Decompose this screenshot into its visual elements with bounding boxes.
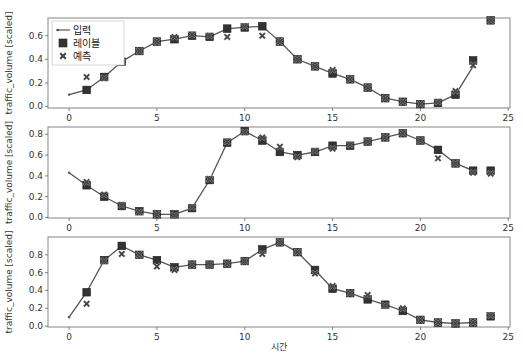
x-axis-label: 시간 bbox=[271, 342, 287, 352]
x-tick-label: 15 bbox=[327, 223, 338, 233]
x-tick-label: 15 bbox=[327, 332, 338, 342]
x-tick-label: 5 bbox=[154, 223, 160, 233]
y-tick-label: 0.0 bbox=[29, 101, 44, 111]
x-tick-label: 10 bbox=[239, 113, 251, 123]
label-marker bbox=[83, 288, 91, 296]
input-point bbox=[68, 316, 70, 318]
y-axis-label: traffic_volume [scaled] bbox=[4, 230, 14, 333]
x-tick-label: 25 bbox=[503, 223, 514, 233]
x-tick-label: 0 bbox=[66, 332, 72, 342]
y-tick-label: 0.6 bbox=[29, 268, 44, 278]
legend-label-label: 레이블 bbox=[73, 38, 100, 49]
x-tick-label: 20 bbox=[415, 113, 427, 123]
x-tick-label: 20 bbox=[415, 223, 427, 233]
axes-frame bbox=[48, 237, 510, 327]
panel-2: 05101520250.00.20.40.60.8traffic_volume … bbox=[4, 121, 514, 233]
legend-label-input: 입력 bbox=[73, 24, 91, 36]
y-tick-label: 0.8 bbox=[29, 250, 44, 260]
input-point bbox=[68, 172, 70, 174]
square-marker-icon bbox=[59, 39, 67, 47]
y-tick-label: 0.4 bbox=[29, 285, 44, 295]
y-tick-label: 0.4 bbox=[29, 171, 44, 181]
label-marker bbox=[83, 86, 91, 94]
chart-canvas: 05101520250.00.20.40.6traffic_volume [sc… bbox=[0, 0, 523, 363]
input-point bbox=[68, 93, 70, 95]
x-tick-label: 20 bbox=[415, 332, 427, 342]
label-marker bbox=[223, 25, 231, 33]
y-tick-label: 0.0 bbox=[29, 212, 44, 222]
x-tick-label: 5 bbox=[154, 113, 160, 123]
dot-marker-icon bbox=[57, 29, 60, 32]
legend: 입력 레이블 예측 bbox=[52, 21, 124, 65]
panel-3: 05101520250.00.20.40.60.8traffic_volume … bbox=[4, 230, 514, 342]
x-tick-label: 15 bbox=[327, 113, 338, 123]
label-marker bbox=[153, 256, 161, 264]
y-tick-label: 0.2 bbox=[29, 78, 43, 88]
label-marker bbox=[259, 22, 267, 30]
x-tick-label: 10 bbox=[239, 223, 251, 233]
x-tick-label: 25 bbox=[503, 332, 514, 342]
x-tick-label: 0 bbox=[66, 113, 72, 123]
legend-label-prediction: 예측 bbox=[73, 51, 91, 62]
x-tick-label: 5 bbox=[154, 332, 160, 342]
chart-figure: 05101520250.00.20.40.6traffic_volume [sc… bbox=[0, 0, 523, 363]
x-tick-label: 0 bbox=[66, 223, 72, 233]
x-tick-label: 10 bbox=[239, 332, 251, 342]
y-tick-label: 0.6 bbox=[29, 31, 44, 41]
y-tick-label: 0.2 bbox=[29, 192, 43, 202]
y-tick-label: 0.8 bbox=[29, 129, 44, 139]
y-axis-label: traffic_volume [scaled] bbox=[4, 11, 14, 114]
y-tick-label: 0.6 bbox=[29, 150, 44, 160]
y-tick-label: 0.2 bbox=[29, 303, 43, 313]
y-tick-label: 0.4 bbox=[29, 54, 44, 64]
label-marker bbox=[434, 146, 442, 154]
x-tick-label: 25 bbox=[503, 113, 514, 123]
y-tick-label: 0.0 bbox=[29, 321, 44, 331]
y-axis-label: traffic_volume [scaled] bbox=[4, 121, 14, 224]
label-marker bbox=[118, 242, 126, 250]
